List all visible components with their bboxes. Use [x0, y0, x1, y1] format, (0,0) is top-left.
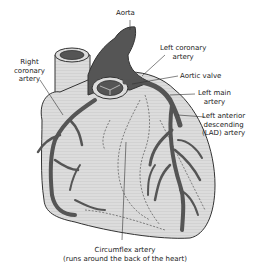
circumflex-artery-label: Circumflex artery (runs around the back … — [60, 246, 190, 263]
right-coronary-artery-text-2: coronary — [14, 67, 45, 76]
lad-artery-text-2: descending — [202, 121, 245, 130]
aorta-label: Aorta — [116, 9, 135, 18]
lad-artery-text-3: (LAD) artery — [202, 129, 245, 138]
right-coronary-artery-label: Right coronary artery — [14, 58, 45, 84]
right-coronary-artery-text-1: Right — [14, 58, 45, 67]
aorta-text: Aorta — [116, 9, 135, 17]
left-main-artery-text-1: Left main — [198, 89, 231, 98]
circumflex-artery-text-1: Circumflex artery — [60, 246, 190, 255]
left-main-artery-label: Left main artery — [198, 89, 231, 106]
right-coronary-artery-text-3: artery — [14, 75, 45, 84]
aortic-valve-text: Aortic valve — [180, 72, 221, 80]
left-coronary-artery-text-2: artery — [160, 53, 206, 62]
lad-artery-text-1: Left anterior — [202, 112, 245, 121]
lad-artery-label: Left anterior descending (LAD) artery — [202, 112, 245, 138]
left-main-artery-text-2: artery — [198, 98, 231, 107]
left-coronary-artery-text-1: Left coronary — [160, 44, 206, 53]
aortic-valve-label: Aortic valve — [180, 72, 221, 81]
circumflex-artery-text-2: (runs around the back of the heart) — [60, 255, 190, 264]
left-coronary-artery-label: Left coronary artery — [160, 44, 206, 61]
